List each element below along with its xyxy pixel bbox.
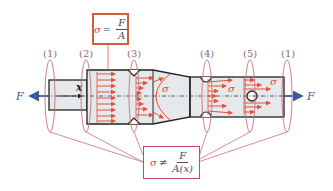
force-right-label: F [306, 90, 315, 103]
section-label-5: (5) [243, 48, 257, 59]
section-label-4: (4) [200, 48, 214, 59]
force-left-label: F [15, 90, 24, 103]
formula-sigma: σ [94, 24, 101, 35]
sigma-label-5: σ [270, 76, 278, 87]
formula-equals: = [103, 24, 111, 35]
formula-numerator: F [177, 151, 188, 163]
section-label-1-right: (1) [281, 48, 295, 59]
formula-fraction: F A [116, 18, 127, 41]
uniform-stress-formula-box: σ = F A [92, 13, 129, 45]
formula-not-equals: ≠ [159, 157, 167, 168]
section-label-1-left: (1) [43, 48, 57, 59]
nonuniform-stress-formula-box: σ ≠ F A(x) [143, 146, 200, 179]
sigma-label-3: σ [162, 83, 170, 94]
formula-numerator: F [116, 18, 127, 30]
section-label-3: (3) [127, 48, 141, 59]
formula-denominator: A [118, 30, 125, 41]
x-axis-label: x [75, 81, 83, 94]
sigma-label-4: σ [228, 83, 236, 94]
formula-denominator: A(x) [172, 163, 193, 174]
formula-sigma: σ [150, 157, 157, 168]
section-label-2: (2) [79, 48, 93, 59]
formula-fraction: F A(x) [172, 151, 193, 174]
